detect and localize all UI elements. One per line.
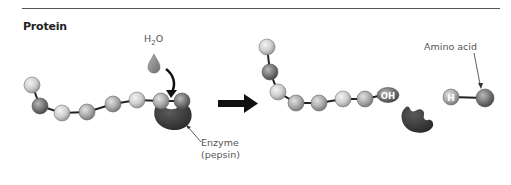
amino-acid-bead (24, 77, 40, 93)
water-drop-icon (148, 54, 160, 73)
water-label-o: O (156, 33, 163, 44)
amino-acid-bead (270, 84, 286, 100)
amino-acid-bead (476, 89, 494, 107)
protein-digestion-diagram: OH H Protein H2O Enzyme (pepsin) Amino a… (0, 0, 511, 185)
amino-acid-pointer-line (474, 53, 480, 84)
reaction-arrow-icon (218, 94, 258, 113)
amino-acid-bead (259, 39, 275, 55)
hydroxyl-group: OH (377, 88, 399, 103)
amino-acid-bead (153, 93, 169, 109)
amino-acid-bead (174, 93, 190, 109)
enzyme-pointer-line (188, 127, 201, 142)
amino-acid-bead (262, 64, 278, 80)
amino-acid-bead (335, 91, 351, 107)
amino-acid-bead (288, 95, 304, 111)
amino-acid-bead (79, 104, 95, 120)
diagram-title: Protein (23, 20, 67, 33)
released-amino-acid: H (443, 89, 494, 107)
enzyme-free-shape (402, 107, 434, 133)
amino-acid-bead (105, 96, 121, 112)
amino-acid-label: Amino acid (424, 41, 477, 53)
right-chain (259, 39, 373, 111)
oh-label: OH (381, 91, 395, 101)
enzyme-label-line1: Enzyme (201, 137, 240, 149)
water-to-enzyme-arrow (166, 69, 174, 92)
amino-acid-bead (311, 95, 327, 111)
amino-acid-bead (357, 91, 373, 107)
amino-acid-bead (32, 98, 48, 114)
h-label: H (447, 93, 455, 103)
amino-acid-bead (54, 105, 70, 121)
amino-acid-bead (129, 92, 145, 108)
enzyme-label: Enzyme (pepsin) (201, 137, 240, 161)
enzyme-label-line2: (pepsin) (201, 149, 240, 161)
diagram-canvas: OH H (0, 0, 511, 185)
pointer-arrowhead-icon (186, 125, 191, 129)
pointer-arrowhead-icon (478, 83, 483, 89)
water-label: H2O (144, 33, 163, 49)
